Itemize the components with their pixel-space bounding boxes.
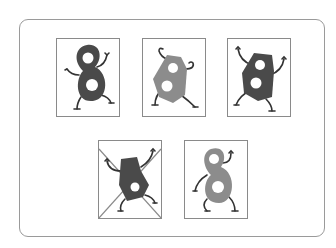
dark-rounded-eight-character-icon: [57, 39, 119, 116]
card-1[interactable]: [56, 38, 120, 117]
card-2[interactable]: [142, 38, 206, 117]
card-4-crossed-out[interactable]: [98, 140, 162, 219]
dark-angular-eight-character-icon: [228, 39, 290, 116]
crossed-dark-eight-character-icon: [99, 141, 161, 218]
card-5[interactable]: [184, 140, 248, 219]
light-rounded-eight-character-icon: [185, 141, 247, 218]
card-3[interactable]: [227, 38, 291, 117]
light-angular-eight-character-icon: [143, 39, 205, 116]
